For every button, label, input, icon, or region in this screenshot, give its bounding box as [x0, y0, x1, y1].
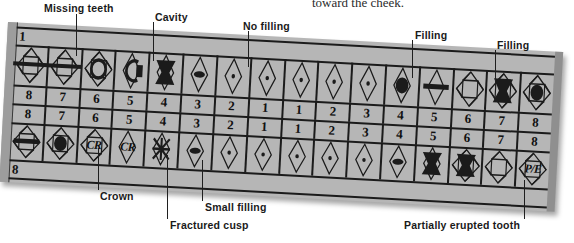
- tooth-number-upper-right-8[interactable]: 8: [519, 112, 552, 133]
- clipped-caption-text: toward the cheek.: [312, 0, 404, 11]
- tooth-cell-upper-right-6[interactable]: [453, 68, 489, 110]
- tooth-cell-lower-right-7[interactable]: [482, 148, 518, 187]
- tooth-outline-icon: [319, 62, 351, 102]
- tooth-number-upper-right-3[interactable]: 3: [350, 103, 385, 124]
- tooth-number-upper-left-5[interactable]: 5: [114, 90, 149, 111]
- tooth-outline-icon: [420, 67, 452, 107]
- tooth-number-lower-right-8[interactable]: 8: [518, 131, 551, 152]
- tooth-number-lower-right-2[interactable]: 2: [315, 120, 350, 141]
- tooth-cell-upper-right-1[interactable]: [284, 59, 320, 101]
- tooth-number-lower-left-3[interactable]: 3: [180, 113, 215, 134]
- tooth-number-upper-left-6[interactable]: 6: [80, 88, 115, 109]
- tooth-number-upper-right-2[interactable]: 2: [316, 101, 351, 122]
- callout-fractured-cusp: Fractured cusp: [170, 219, 249, 231]
- tooth-cell-upper-right-5[interactable]: [419, 66, 455, 108]
- tooth-outline-icon: [450, 147, 482, 184]
- tooth-number-lower-left-2[interactable]: 2: [214, 114, 249, 135]
- tooth-number-upper-left-2[interactable]: 2: [215, 95, 250, 116]
- tooth-cell-lower-right-6[interactable]: [448, 146, 484, 185]
- tooth-number-lower-left-6[interactable]: 6: [79, 107, 114, 128]
- leader-missing-teeth: [76, 14, 77, 56]
- tooth-number-lower-left-4[interactable]: 4: [147, 111, 182, 132]
- tooth-number-upper-left-1[interactable]: 1: [249, 97, 284, 118]
- tooth-number-upper-left-3[interactable]: 3: [181, 94, 216, 115]
- tooth-cell-lower-left-5[interactable]: CR: [111, 128, 147, 167]
- tooth-cell-upper-left-1[interactable]: [250, 57, 286, 99]
- tooth-cell-lower-right-2[interactable]: [313, 139, 349, 178]
- tooth-outline-icon: [116, 51, 148, 91]
- tooth-cell-upper-right-4[interactable]: [385, 65, 421, 107]
- tooth-number-upper-right-6[interactable]: 6: [452, 108, 487, 129]
- tooth-cell-upper-right-3[interactable]: [351, 63, 387, 105]
- tooth-cell-lower-left-4[interactable]: [145, 130, 181, 169]
- tooth-number-upper-left-8[interactable]: 8: [13, 84, 48, 105]
- callout-crown: Crown: [100, 190, 134, 202]
- tooth-cell-upper-left-3[interactable]: [182, 54, 218, 96]
- tooth-outline-icon: [179, 133, 211, 170]
- tooth-cell-upper-left-4[interactable]: [149, 52, 185, 94]
- leader-no-filling: [248, 31, 249, 67]
- tooth-cell-lower-left-7[interactable]: [43, 124, 79, 163]
- tooth-cell-upper-left-7[interactable]: [47, 46, 83, 88]
- tooth-cell-lower-right-8[interactable]: P/E: [516, 150, 550, 189]
- tooth-number-upper-right-1[interactable]: 1: [283, 99, 318, 120]
- tooth-number-lower-right-1[interactable]: 1: [282, 118, 317, 139]
- tooth-cell-upper-left-5[interactable]: [115, 50, 151, 92]
- tooth-cell-lower-right-3[interactable]: [347, 141, 383, 180]
- tooth-number-lower-right-4[interactable]: 4: [383, 123, 418, 144]
- tooth-number-upper-left-7[interactable]: 7: [46, 86, 81, 107]
- tooth-cell-lower-left-8[interactable]: [10, 122, 46, 161]
- quadrant-number-lower-left: 8: [12, 162, 19, 175]
- leader-cavity: [153, 22, 154, 61]
- tooth-outline-icon: [82, 49, 114, 89]
- callout-no-filling: No filling: [243, 20, 290, 32]
- figure-stage: toward the cheek. 1 8 8765432112345678 8…: [0, 0, 574, 243]
- tooth-number-lower-right-7[interactable]: 7: [484, 129, 519, 150]
- tooth-cell-lower-right-1[interactable]: [280, 137, 316, 176]
- tooth-cell-upper-left-2[interactable]: [216, 55, 252, 97]
- tooth-cell-lower-left-3[interactable]: [178, 131, 214, 170]
- tooth-number-lower-left-5[interactable]: 5: [113, 109, 148, 130]
- tooth-outline-icon: [517, 151, 549, 188]
- tooth-outline-icon: [416, 145, 448, 182]
- callout-partially-erupted: Partially erupted tooth: [404, 219, 520, 231]
- tooth-outline-icon: [150, 53, 182, 93]
- tooth-outline-icon: [247, 136, 279, 173]
- tooth-cell-upper-right-2[interactable]: [318, 61, 354, 103]
- tooth-outline-icon: [382, 144, 414, 181]
- tooth-outline-icon: [213, 134, 245, 171]
- tooth-cell-upper-left-8[interactable]: [14, 44, 50, 86]
- tooth-cell-lower-left-1[interactable]: [246, 135, 282, 174]
- tooth-number-upper-right-4[interactable]: 4: [384, 105, 419, 126]
- callout-filling-upper-2: Filling: [497, 39, 529, 51]
- tooth-cell-upper-right-7[interactable]: [486, 70, 522, 112]
- tooth-cell-lower-left-6[interactable]: CR: [77, 126, 113, 165]
- tooth-outline-icon: [487, 71, 519, 111]
- tooth-cell-lower-right-4[interactable]: [381, 142, 417, 181]
- tooth-outline-icon: [386, 66, 418, 106]
- callout-small-filling: Small filling: [205, 201, 267, 213]
- tooth-outline-icon: [285, 60, 317, 100]
- chart-grid: 1 8 8765432112345678 8765432112345678 CR…: [9, 26, 555, 207]
- callout-cavity: Cavity: [155, 11, 188, 23]
- quadrant-number-upper-left: 1: [19, 30, 26, 43]
- tooth-number-lower-right-3[interactable]: 3: [349, 122, 384, 143]
- tooth-outline-icon: [352, 64, 384, 104]
- tooth-outline-icon: [454, 69, 486, 109]
- tooth-cell-lower-left-2[interactable]: [212, 133, 248, 172]
- tooth-number-upper-right-7[interactable]: 7: [485, 110, 520, 131]
- tooth-number-upper-left-4[interactable]: 4: [148, 92, 183, 113]
- tooth-cell-lower-right-5[interactable]: [415, 144, 451, 183]
- tooth-number-lower-left-7[interactable]: 7: [45, 105, 80, 126]
- tooth-number-lower-right-5[interactable]: 5: [417, 125, 452, 146]
- tooth-cell-upper-right-8[interactable]: [520, 72, 554, 114]
- tooth-outline-icon: [483, 149, 515, 186]
- leader-crown: [98, 148, 99, 190]
- tooth-outline-icon: [348, 142, 380, 179]
- tooth-number-upper-right-5[interactable]: 5: [418, 106, 453, 127]
- tooth-number-lower-left-1[interactable]: 1: [248, 116, 283, 137]
- tooth-cell-upper-left-6[interactable]: [81, 48, 117, 90]
- callout-filling-upper-1: Filling: [415, 29, 447, 41]
- tooth-number-lower-right-6[interactable]: 6: [450, 127, 485, 148]
- tooth-number-lower-left-8[interactable]: 8: [12, 103, 47, 124]
